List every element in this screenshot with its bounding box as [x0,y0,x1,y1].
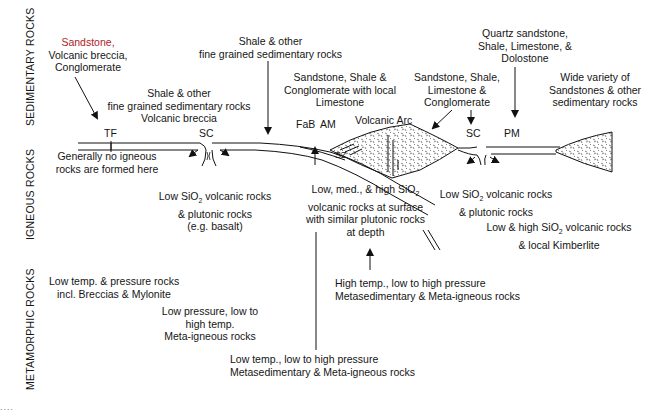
ign-label-sc-left: Low SiO2 volcanic rocks & plutonic rocks… [155,190,275,233]
ign-scl-line1a: Low SiO [159,190,199,202]
corner-dots: .... [0,402,14,412]
continental-margin [458,147,477,155]
ign-arc-line2: volcanic rocks at surface [308,201,423,213]
met-ltp-line2: incl. Breccias & Mylonite [49,288,171,300]
sed-label-tf-line1: Sandstone, [61,36,114,48]
met-ht-line2: Metasedimentary & Meta-igneous rocks [335,290,520,302]
sed-cont-line3: sedimentary rocks [552,96,637,108]
sed-label-tf: Sandstone, Volcanic breccia, Conglomerat… [48,36,128,74]
setting-sz: SZ [335,150,347,160]
sed-ocean-line2: fine grained sedimentary rocks [199,48,342,60]
sed-cont-line1: Wide variety of [560,71,629,83]
ign-label-sc-right: Low SiO2 volcanic rocks & plutonic rocks [436,188,556,218]
sed-label-ocean-floor: Shale & other fine grained sedimentary r… [198,35,343,60]
ign-label-continent: Low & high SiO2 volcanic rocks & local K… [484,221,634,251]
setting-tf: TF [104,127,117,139]
sed-forearc-line1: Sandstone, Shale & [294,71,387,83]
met-lt-line1: Low temp., low to high pressure [230,353,378,365]
ign-scl-line3: (e.g. basalt) [187,220,242,232]
sed-pm-line1: Quartz sandstone, [482,27,568,39]
ign-label-tf: Generally no igneous rocks are formed he… [52,150,162,175]
sed-arcside-line3: Conglomerate [424,96,490,108]
spreading-center-right [468,147,560,165]
sed-label-arc-side: Sandstone, Shale, Limestone & Conglomera… [412,71,502,109]
sed-ocean-line1: Shale & other [239,35,303,47]
sed-cont-line2: Sandstones & other [549,84,641,96]
spreading-center-left [190,150,228,166]
sed-sc-left-line3: Volcanic breccia [141,112,217,124]
ign-cont-line1a: Low & high SiO [486,221,558,233]
met-ht-line1: High temp., low to high pressure [335,277,486,289]
ign-scr-line2: & plutonic rocks [459,206,533,218]
ign-arc-line4: at depth [347,226,385,238]
met-label-low-pressure: Low pressure, low to high temp. Meta-ign… [160,305,260,343]
sed-label-tf-line3: Conglomerate [55,61,121,73]
met-lt-line2: Metasedimentary & Meta-igneous rocks [230,366,415,378]
met-ltp-line1: Low temp. & pressure rocks [49,275,179,287]
ign-cont-line2: & local Kimberlite [518,239,599,251]
ign-scl-line2: & plutonic rocks [178,208,252,220]
sed-label-forearc: Sandstone, Shale & Conglomerate with loc… [280,71,400,109]
ign-tf-line1: Generally no igneous [57,150,156,162]
sed-label-continent: Wide variety of Sandstones & other sedim… [540,71,650,109]
sed-forearc-line2: Conglomerate with local [284,84,396,96]
oceanic-plate-left [111,143,206,150]
setting-sc-left: SC [199,127,214,139]
continental-wedge [556,132,612,172]
setting-pm: PM [504,127,520,139]
ign-label-arc: Low, med., & high SiO2 volcanic rocks at… [303,183,428,238]
ign-arc-line3: with similar plutonic rocks [306,213,425,225]
setting-am: AM [320,118,336,130]
volcanic-arc [330,124,458,178]
ign-scr-line1b: volcanic rocks [483,188,552,200]
sed-pm-line2: Shale, Limestone, & [478,40,572,52]
setting-fab: FaB [296,118,315,130]
ign-cont-line1b: volcanic rocks [563,221,632,233]
ign-arc-line1a: Low, med., & high SiO [312,183,416,195]
sed-label-tf-line2: Volcanic breccia, [49,49,128,61]
sed-arcside-line1: Sandstone, Shale, [414,71,500,83]
sed-sc-left-line1: Shale & other [147,87,211,99]
sed-pm-line3: Dolostone [501,52,548,64]
met-lp-line3: Meta-igneous rocks [164,330,256,342]
sed-label-sc-left: Shale & other fine grained sedimentary r… [104,87,254,125]
met-label-low-temp: Low temp., low to high pressure Metasedi… [230,353,415,378]
met-label-high-temp: High temp., low to high pressure Metased… [335,277,520,302]
ign-scr-line1a: Low SiO [440,188,480,200]
ign-scl-line1b: volcanic rocks [202,190,271,202]
sed-sc-left-line2: fine grained sedimentary rocks [108,100,251,112]
sed-label-passive-margin: Quartz sandstone, Shale, Limestone, & Do… [475,27,575,65]
met-lp-line2: high temp. [185,318,234,330]
setting-sc-right: SC [466,127,481,139]
met-label-low-temp-pressure: Low temp. & pressure rocks incl. Breccia… [49,275,179,300]
sed-forearc-line3: Limestone [316,96,364,108]
met-lp-line1: Low pressure, low to [162,305,258,317]
ign-tf-line2: rocks are formed here [56,163,159,175]
setting-volcanic-arc: Volcanic Arc [355,114,412,126]
ign-arc-sub: 2 [415,190,419,197]
sed-arcside-line2: Limestone & [428,84,486,96]
